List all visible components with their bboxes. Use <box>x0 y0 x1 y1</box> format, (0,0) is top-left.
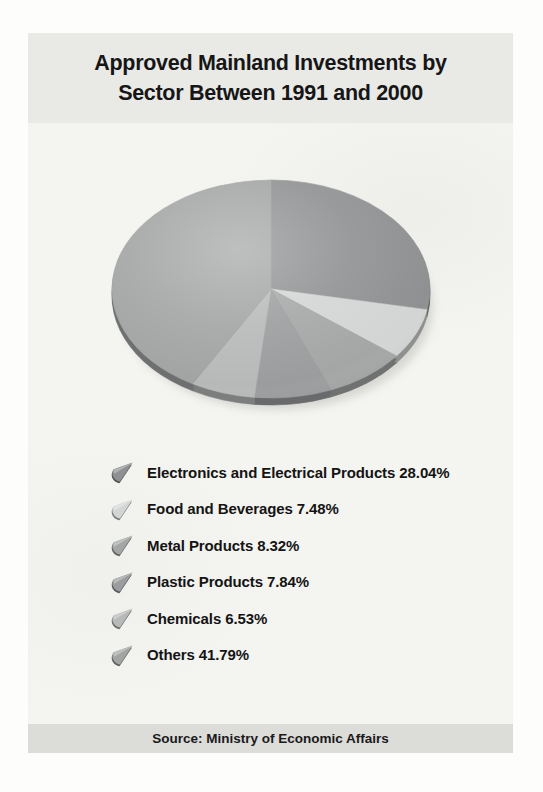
legend-item: Chemicals 6.53% <box>108 600 450 637</box>
pie-sheen-overlay <box>112 180 430 398</box>
figure-panel: Approved Mainland Investments by Sector … <box>28 33 513 753</box>
source-text: Source: Ministry of Economic Affairs <box>152 731 389 746</box>
legend-label: Chemicals 6.53% <box>147 610 267 627</box>
source-band: Source: Ministry of Economic Affairs <box>28 724 513 753</box>
pie-wedge-icon <box>108 533 134 557</box>
chart-title-band: Approved Mainland Investments by Sector … <box>28 33 513 123</box>
legend-item: Plastic Products 7.84% <box>108 564 450 601</box>
legend-label: Plastic Products 7.84% <box>147 573 309 590</box>
legend-label: Food and Beverages 7.48% <box>147 500 339 517</box>
chart-title-line2: Sector Between 1991 and 2000 <box>118 78 423 108</box>
legend-label: Metal Products 8.32% <box>147 537 299 554</box>
pie-wedge-icon <box>108 460 134 484</box>
legend-label: Others 41.79% <box>147 646 249 663</box>
pie-wedge-icon <box>108 497 134 521</box>
chart-title-line1: Approved Mainland Investments by <box>94 48 446 78</box>
legend-item: Electronics and Electrical Products 28.0… <box>108 454 450 491</box>
scanned-page: Approved Mainland Investments by Sector … <box>0 0 543 792</box>
legend-item: Food and Beverages 7.48% <box>108 491 450 528</box>
legend-item: Metal Products 8.32% <box>108 527 450 564</box>
pie-wedge-icon <box>108 606 134 630</box>
legend-label: Electronics and Electrical Products 28.0… <box>147 464 450 481</box>
chart-body: Electronics and Electrical Products 28.0… <box>28 123 513 724</box>
legend-item: Others 41.79% <box>108 637 450 674</box>
pie-chart <box>98 168 444 423</box>
legend: Electronics and Electrical Products 28.0… <box>108 454 450 673</box>
pie-wedge-icon <box>108 643 134 667</box>
pie-wedge-icon <box>108 570 134 594</box>
